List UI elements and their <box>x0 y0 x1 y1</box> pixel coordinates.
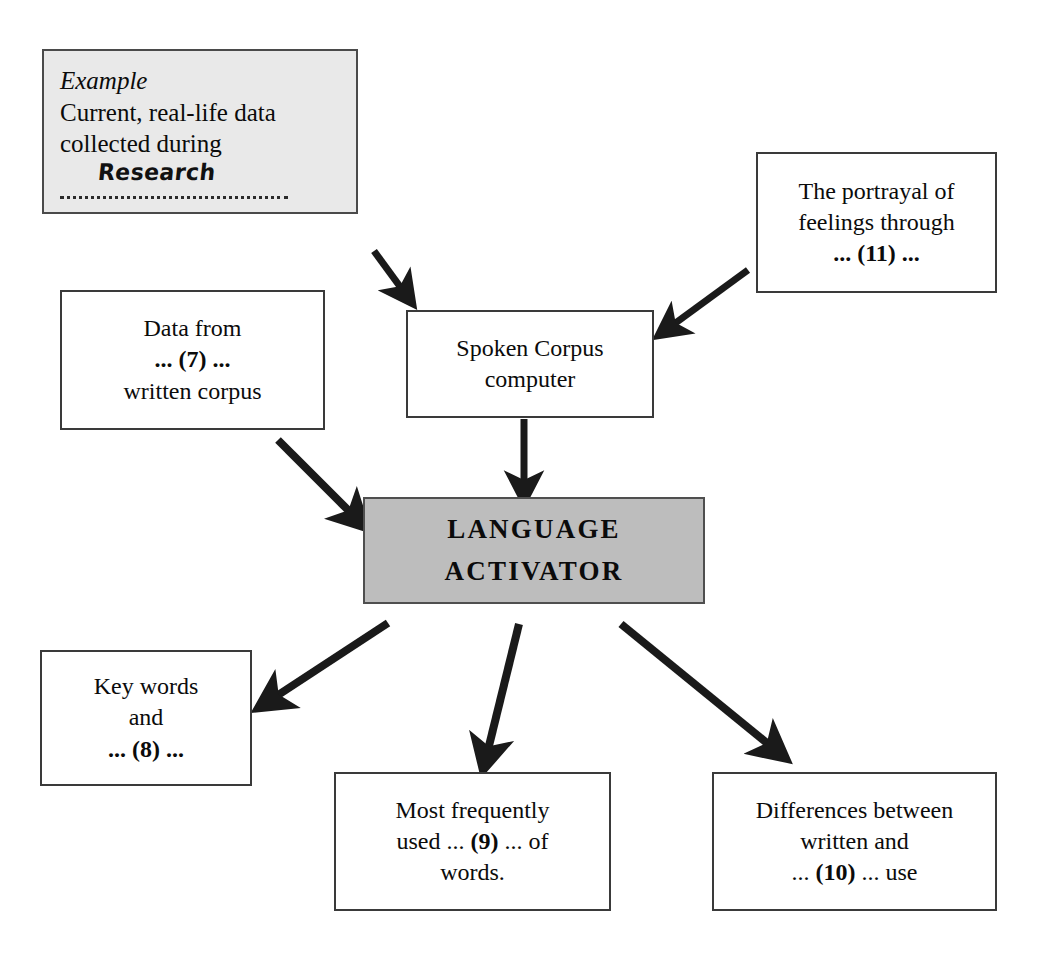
most-frequent-gap-9: used ... (9) ... of <box>397 826 549 857</box>
key-words-line-1: Key words <box>94 671 199 702</box>
data-from-line-3: written corpus <box>124 376 262 407</box>
activator-line-2: ACTIVATOR <box>445 551 624 593</box>
key-words-gap-8: ... (8) ... <box>108 734 184 765</box>
node-example[interactable]: Example Current, real-life data collecte… <box>42 49 358 214</box>
differences-gap-10: ... (10) ... use <box>792 857 918 888</box>
node-differences[interactable]: Differences between written and ... (10)… <box>712 772 997 911</box>
node-spoken-corpus[interactable]: Spoken Corpus computer <box>406 310 654 418</box>
data-from-gap-7: ... (7) ... <box>155 344 231 375</box>
example-line-2: collected during <box>60 128 222 160</box>
node-language-activator[interactable]: LANGUAGE ACTIVATOR <box>363 497 705 604</box>
arrow-data-from-to-activator <box>278 440 354 516</box>
arrow-activator-to-most-frequent <box>487 624 519 754</box>
key-words-line-2: and <box>129 702 164 733</box>
differences-line-2: written and <box>800 826 909 857</box>
arrow-portrayal-to-spoken-corpus <box>670 270 748 327</box>
most-frequent-line-3: words. <box>440 857 505 888</box>
node-data-from[interactable]: Data from ... (7) ... written corpus <box>60 290 325 430</box>
node-most-frequent[interactable]: Most frequently used ... (9) ... of word… <box>334 772 611 911</box>
spoken-corpus-line-2: computer <box>485 364 576 395</box>
diagram-canvas: Example Current, real-life data collecte… <box>0 0 1059 960</box>
data-from-line-1: Data from <box>144 313 242 344</box>
node-key-words[interactable]: Key words and ... (8) ... <box>40 650 252 786</box>
most-frequent-line-1: Most frequently <box>396 795 550 826</box>
arrow-activator-to-differences <box>621 624 773 748</box>
example-heading: Example <box>60 65 147 97</box>
portrayal-line-1: The portrayal of <box>799 176 955 207</box>
portrayal-line-2: feelings through <box>798 207 955 238</box>
activator-line-1: LANGUAGE <box>447 509 621 551</box>
spoken-corpus-line-1: Spoken Corpus <box>456 333 603 364</box>
example-line-1: Current, real-life data <box>60 97 276 129</box>
arrow-activator-to-key-words <box>272 623 388 699</box>
dotted-answer-line <box>60 196 288 199</box>
node-portrayal[interactable]: The portrayal of feelings through ... (1… <box>756 152 997 293</box>
differences-line-1: Differences between <box>756 795 953 826</box>
portrayal-gap-11: ... (11) ... <box>833 238 920 269</box>
example-answer-blank[interactable]: Research <box>60 161 292 201</box>
arrow-example-to-spoken-corpus <box>374 251 404 292</box>
handwritten-answer: Research <box>96 158 217 187</box>
